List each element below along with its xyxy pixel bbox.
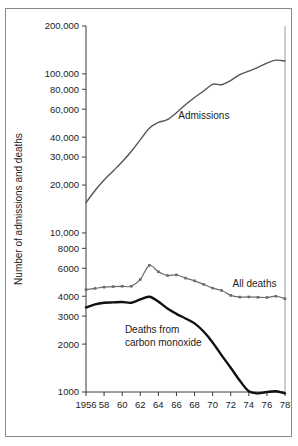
series-marker	[85, 288, 88, 291]
x-tick-label: 68	[189, 399, 200, 410]
series-marker	[103, 286, 106, 289]
series-marker	[284, 297, 287, 300]
series-marker	[238, 296, 241, 299]
series-annotation-2: Deaths from	[125, 324, 179, 335]
series-annotation-2-line2: carbon monoxide	[125, 337, 202, 348]
y-tick-label: 80,000	[50, 84, 79, 95]
x-tick-label: 62	[135, 399, 146, 410]
series-marker	[139, 278, 142, 281]
x-tick-label: 66	[171, 399, 182, 410]
figure-container: 10002000300040006000800010,00020,00030,0…	[0, 0, 298, 446]
series-annotation-0: Admissions	[178, 110, 229, 121]
x-tick-label: 58	[99, 399, 110, 410]
y-tick-label: 30,000	[50, 151, 79, 162]
y-tick-label: 60,000	[50, 104, 79, 115]
y-tick-label: 40,000	[50, 132, 79, 143]
x-tick-label: 74	[244, 399, 255, 410]
series-marker	[211, 287, 214, 290]
y-tick-label: 8000	[58, 243, 79, 254]
y-tick-label: 200,000	[45, 20, 79, 31]
series-marker	[248, 296, 251, 299]
series-marker	[275, 295, 278, 298]
series-marker	[193, 280, 196, 283]
series-marker	[148, 264, 151, 267]
series-marker	[94, 287, 97, 290]
x-tick-label: 60	[117, 399, 128, 410]
series-marker	[157, 270, 160, 273]
series-marker	[266, 296, 269, 299]
y-tick-label: 1000	[58, 386, 79, 397]
x-tick-label: 64	[153, 399, 164, 410]
series-line-0	[86, 60, 285, 203]
series-marker	[229, 294, 232, 297]
series-marker	[257, 296, 260, 299]
series-marker	[220, 289, 223, 292]
y-axis-title: Number of admissions and deaths	[13, 133, 24, 285]
series-marker	[166, 274, 169, 277]
y-tick-label: 10,000	[50, 227, 79, 238]
x-tick-label: 1956	[75, 399, 96, 410]
series-marker	[184, 277, 187, 280]
series-marker	[130, 285, 133, 288]
x-tick-label: 76	[262, 399, 273, 410]
x-tick-label: 78	[280, 399, 291, 410]
series-marker	[175, 274, 178, 277]
y-tick-label: 3000	[58, 311, 79, 322]
y-tick-label: 6000	[58, 263, 79, 274]
y-tick-label: 2000	[58, 339, 79, 350]
series-marker	[202, 283, 205, 286]
y-tick-label: 20,000	[50, 179, 79, 190]
x-tick-label: 72	[225, 399, 236, 410]
series-annotation-1: All deaths	[233, 278, 277, 289]
line-chart: 10002000300040006000800010,00020,00030,0…	[0, 0, 298, 446]
y-tick-label: 100,000	[45, 68, 79, 79]
series-marker	[112, 285, 115, 288]
series-marker	[121, 285, 124, 288]
x-tick-label: 70	[207, 399, 218, 410]
y-tick-label: 4000	[58, 291, 79, 302]
